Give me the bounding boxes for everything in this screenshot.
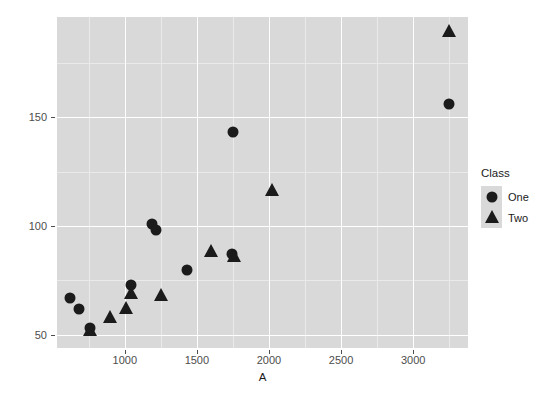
grid-major-vertical: [413, 17, 414, 348]
grid-major-horizontal: [57, 226, 468, 227]
data-point-one: [64, 292, 75, 303]
grid-minor-horizontal: [57, 63, 468, 64]
grid-minor-vertical: [449, 17, 450, 348]
x-tick-label: 1000: [113, 354, 137, 366]
data-point-two: [265, 183, 279, 196]
y-tick-label: 150: [29, 111, 47, 123]
data-point-one: [150, 225, 161, 236]
grid-minor-horizontal: [57, 280, 468, 281]
grid-major-vertical: [197, 17, 198, 348]
data-point-one: [227, 127, 238, 138]
y-tick-mark: [51, 226, 55, 227]
marker-circle: [486, 191, 497, 202]
legend: Class OneTwo: [481, 167, 529, 228]
data-point-two: [204, 244, 218, 257]
chart-root: 1000150020002500300050100150 A B Class O…: [0, 0, 546, 404]
data-point-two: [124, 285, 138, 298]
legend-entries: OneTwo: [481, 186, 529, 228]
legend-label: One: [508, 191, 529, 203]
legend-key-triangle: [481, 207, 502, 228]
x-tick-label: 2500: [329, 354, 353, 366]
data-point-one: [181, 264, 192, 275]
plot-panel: [57, 17, 468, 348]
y-tick-label: 50: [35, 329, 47, 341]
legend-item-two[interactable]: Two: [481, 207, 529, 228]
data-point-one: [73, 303, 84, 314]
grid-major-horizontal: [57, 117, 468, 118]
legend-label: Two: [508, 212, 528, 224]
grid-major-horizontal: [57, 335, 468, 336]
y-tick-mark: [51, 117, 55, 118]
grid-minor-vertical: [233, 17, 234, 348]
legend-item-one[interactable]: One: [481, 186, 529, 207]
grid-minor-vertical: [89, 17, 90, 348]
x-tick-label: 3000: [401, 354, 425, 366]
marker-triangle: [485, 209, 499, 222]
data-point-two: [103, 309, 117, 322]
y-axis-title: B: [0, 184, 1, 192]
data-point-one: [444, 99, 455, 110]
data-point-two: [154, 288, 168, 301]
x-tick-label: 1500: [185, 354, 209, 366]
data-point-two: [227, 248, 241, 261]
data-point-two: [83, 323, 97, 336]
grid-minor-vertical: [305, 17, 306, 348]
legend-key-circle: [481, 186, 502, 207]
y-tick-label: 100: [29, 220, 47, 232]
data-point-two: [442, 24, 456, 37]
y-tick-mark: [51, 335, 55, 336]
grid-major-vertical: [341, 17, 342, 348]
x-tick-label: 2000: [257, 354, 281, 366]
x-axis-title: A: [57, 371, 468, 383]
legend-title: Class: [481, 167, 529, 179]
grid-minor-horizontal: [57, 172, 468, 173]
data-point-two: [119, 301, 133, 314]
grid-minor-vertical: [377, 17, 378, 348]
